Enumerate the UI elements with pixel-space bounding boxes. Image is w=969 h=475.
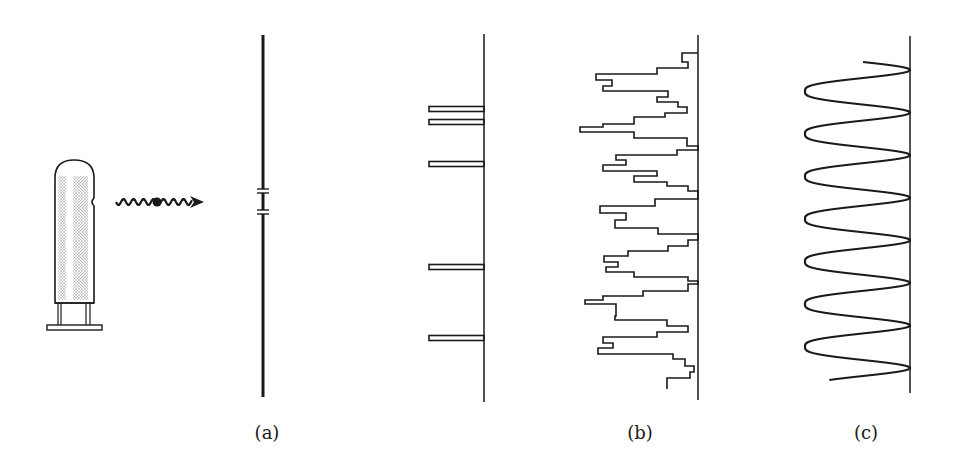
panel-b-histogram <box>580 35 698 400</box>
histogram-outline <box>580 53 698 389</box>
tube-base-plate <box>47 325 102 330</box>
panel-a-particle-pattern <box>429 34 484 402</box>
hit-bar <box>429 336 484 341</box>
electron-source-tube-icon <box>47 160 102 330</box>
double-slit-diagram <box>0 0 969 475</box>
tube-shading-left <box>58 176 66 300</box>
hit-bar <box>429 107 484 112</box>
hit-bar <box>429 265 484 270</box>
hit-bar <box>429 120 484 125</box>
panel-label-b: (b) <box>627 422 653 443</box>
hit-bar <box>429 162 484 167</box>
tube-shading-center <box>73 176 88 300</box>
wavy-arrow-particle-icon <box>116 196 204 208</box>
panel-label-a: (a) <box>255 422 280 443</box>
panel-c-interference-curve <box>805 36 910 393</box>
double-slit-barrier <box>257 35 269 397</box>
panel-label-c: (c) <box>854 422 878 443</box>
intensity-curve <box>805 62 910 380</box>
particle-dot <box>153 198 162 207</box>
